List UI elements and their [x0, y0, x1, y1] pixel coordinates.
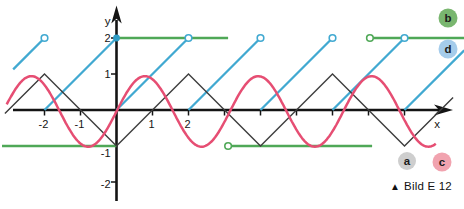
x-tick-label: -2: [39, 118, 49, 130]
legend-badge-a: a: [398, 152, 416, 170]
y-tick-label: 1: [104, 68, 110, 80]
open-point-b: [367, 35, 374, 42]
series-d: [13, 38, 464, 110]
series-c-path: [7, 76, 436, 147]
figure-caption: ▲Bild E 12: [390, 180, 452, 192]
x-axis-label: x: [434, 118, 440, 130]
series-d-segment: [189, 38, 261, 110]
caption-text: Bild E 12: [404, 180, 452, 192]
series-d-segment: [117, 38, 189, 110]
open-point-d: [185, 35, 192, 42]
series-d-segment: [261, 38, 333, 110]
y-tick-label: -1: [101, 147, 111, 159]
open-point-d: [41, 35, 48, 42]
series-d-segment: [13, 38, 44, 69]
legend-badge-b: b: [439, 9, 458, 28]
series-b: [2, 38, 464, 146]
series-d-segment: [405, 50, 464, 110]
legend-badge-d: d: [439, 40, 458, 59]
legend-badge-label-a: a: [404, 155, 411, 167]
open-point-d: [401, 35, 408, 42]
open-point-d: [257, 35, 264, 42]
open-point-b: [225, 143, 232, 150]
series-c: [7, 76, 436, 147]
legend-badge-c: c: [433, 153, 452, 172]
function-plot-svg: -2-11221-1-2xybdac: [0, 0, 464, 209]
x-tick-label: 2: [184, 118, 190, 130]
figure-container: -2-11221-1-2xybdac ▲Bild E 12: [0, 0, 464, 209]
x-tick-label: -1: [75, 118, 85, 130]
legend-badge-label-d: d: [444, 43, 451, 55]
caption-triangle-marker: ▲: [390, 181, 400, 192]
legend-badge-label-b: b: [444, 12, 451, 24]
legend-badge-label-c: c: [439, 156, 446, 168]
closed-point-d: [113, 35, 120, 42]
y-axis-label: y: [105, 15, 111, 27]
y-tick-label: 2: [104, 32, 110, 44]
y-tick-label: -2: [101, 178, 111, 190]
x-tick-label: 1: [148, 118, 154, 130]
open-point-d: [329, 35, 336, 42]
